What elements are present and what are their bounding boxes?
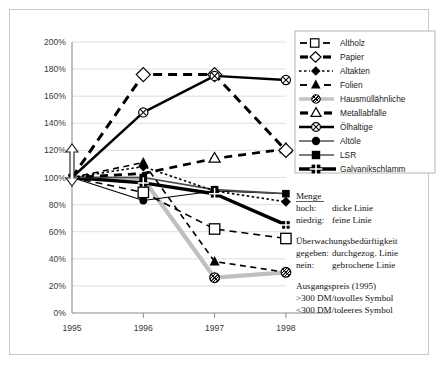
y-tick-label: 20% [49,281,67,291]
y-tick-label: 160% [44,91,66,101]
series-papier [72,75,286,178]
note-value: leeres Symbol [341,305,393,315]
note-value: dicke Linie [332,203,373,213]
x-tick-label: 1996 [134,323,153,333]
y-tick-label: 40% [49,254,67,264]
note-key: >300 DM/to. [296,293,344,303]
note-key: gegeben: [296,248,329,258]
note-value: feine Linie [332,215,372,225]
chart-canvas: 200% 180% 160% 140% 120% 100% 80% 60% 40… [0,0,440,367]
legend-label: Ölhaltige [340,122,373,132]
note-key: <300 DM/to. [296,305,344,315]
note-block-menge: Menge hoch: dicke Linie niedrig: feine L… [296,191,373,225]
x-tick-label: 1997 [205,323,224,333]
y-tick-label: 120% [44,145,66,155]
y-tick-label: 60% [49,227,67,237]
y-tick-label: 80% [49,200,67,210]
legend-label: LSR [340,150,356,160]
y-axis-labels: 200% 180% 160% 140% 120% 100% 80% 60% 40… [44,37,66,318]
legend-label: Altholz [340,38,365,48]
note-value: gebrochene Linie [332,260,395,270]
note-block-ueberwachung: Überwachungsbedürftigkeit gegeben: durch… [296,236,398,270]
note-block-ausgangspreis: Ausgangspreis (1995) >300 DM/to. volles … [296,281,394,315]
y-tick-label: 200% [44,37,66,47]
note-key: nein: [296,260,314,270]
y-tick-label: 140% [44,118,66,128]
note-value: volles Symbol [341,293,394,303]
markers-metallabfaelle [209,143,292,162]
legend: Altholz Papier Altakten Folien [295,31,435,175]
series-oelhaltige [72,76,286,178]
note-title: Menge [296,191,321,201]
x-tick-label: 1995 [62,323,81,333]
x-tick-marks [143,313,286,318]
legend-label: Hausmüllähnliche [340,94,406,104]
legend-label: Altöle [340,136,361,146]
legend-item-hausmuellaehnliche[interactable]: Hausmüllähnliche [299,94,406,104]
note-key: hoch: [296,203,316,213]
y-tick-label: 100% [44,173,66,183]
series-galvanikschlamm [72,178,286,225]
x-tick-label: 1998 [276,323,295,333]
legend-label: Folien [340,80,363,90]
note-value: durchgezog. Linie [332,248,398,258]
x-axis-labels: 1995 1996 1997 1998 [62,323,295,333]
note-title: Überwachungsbedürftigkeit [296,236,398,246]
legend-label: Papier [340,52,364,62]
legend-label: Altakten [340,66,370,76]
legend-label: Galvanikschlamm [340,164,406,174]
legend-label: Metallabfälle [340,108,387,118]
note-key: niedrig: [296,215,324,225]
note-title: Ausgangspreis (1995) [296,281,376,291]
y-tick-label: 180% [44,64,66,74]
range-arrow-annotation [66,144,78,186]
y-tick-label: 0% [54,308,67,318]
